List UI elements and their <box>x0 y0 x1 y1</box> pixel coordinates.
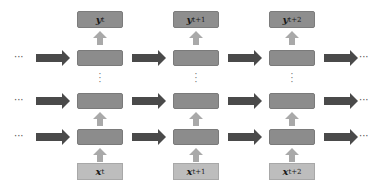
vertical-ellipsis-t2: ··· <box>289 72 295 84</box>
output-box-t2: yt+2 <box>269 11 315 28</box>
ellipsis-left-bottom: ··· <box>14 130 24 141</box>
vertical-ellipsis-t1: ··· <box>193 72 199 84</box>
ellipsis-left-middle: ··· <box>14 94 24 105</box>
input-box-t: xt <box>77 163 123 180</box>
hidden-cell-top-t1 <box>173 50 219 66</box>
hidden-cell-middle-t2 <box>269 93 315 109</box>
hidden-cell-middle-t <box>77 93 123 109</box>
vertical-ellipsis-t: ··· <box>97 72 103 84</box>
ellipsis-right-middle: ··· <box>359 94 369 105</box>
hidden-cell-top-t2 <box>269 50 315 66</box>
output-box-t: yt <box>77 11 123 28</box>
ellipsis-right-bottom: ··· <box>359 130 369 141</box>
input-box-t1: xt+1 <box>173 163 219 180</box>
output-box-t1: yt+1 <box>173 11 219 28</box>
hidden-cell-bottom-t2 <box>269 129 315 145</box>
hidden-cell-bottom-t <box>77 129 123 145</box>
ellipsis-right-top: ··· <box>359 51 369 62</box>
hidden-cell-middle-t1 <box>173 93 219 109</box>
hidden-cell-top-t <box>77 50 123 66</box>
hidden-cell-bottom-t1 <box>173 129 219 145</box>
input-box-t2: xt+2 <box>269 163 315 180</box>
ellipsis-left-top: ··· <box>14 51 24 62</box>
